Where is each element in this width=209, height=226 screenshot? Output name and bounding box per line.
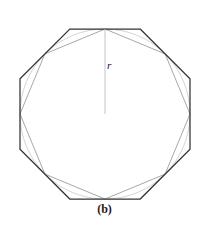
radius-label: r [107, 60, 111, 71]
figure-caption: (b) [0, 203, 209, 215]
figure-container: r (b) [0, 0, 209, 226]
octagon-circle-diagram [0, 0, 209, 226]
